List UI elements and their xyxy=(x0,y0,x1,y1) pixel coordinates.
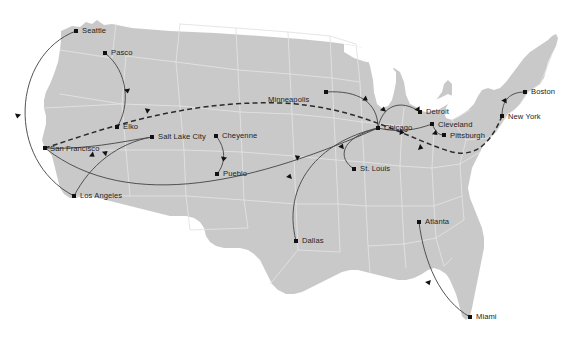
city-dot-dallas[interactable] xyxy=(294,239,298,243)
arrowhead-atlanta-miami-0 xyxy=(425,280,432,286)
city-dot-miami[interactable] xyxy=(468,315,472,319)
city-dot-los-angeles[interactable] xyxy=(72,194,76,198)
landmass-layer xyxy=(42,20,558,320)
city-label-salt-lake-city: Salt Lake City xyxy=(158,133,206,141)
city-label-elko: Elko xyxy=(123,123,138,131)
city-label-chicago: Chicago xyxy=(384,124,412,132)
city-label-st-louis: St. Louis xyxy=(360,165,390,173)
city-label-new-york: New York xyxy=(508,113,541,121)
city-dot-boston[interactable] xyxy=(523,90,527,94)
city-label-miami: Miami xyxy=(476,313,497,321)
city-label-atlanta: Atlanta xyxy=(425,218,449,226)
city-dot-san-francisco[interactable] xyxy=(43,146,47,150)
city-label-pasco: Pasco xyxy=(111,49,133,57)
city-dot-salt-lake-city[interactable] xyxy=(150,135,154,139)
city-label-boston: Boston xyxy=(531,88,555,96)
city-label-pittsburgh: Pittsburgh xyxy=(450,132,485,140)
city-label-seattle: Seattle xyxy=(82,27,106,35)
city-dot-pueblo[interactable] xyxy=(215,172,219,176)
city-label-minneapolis: Minneapolis xyxy=(268,96,309,104)
us-landmass xyxy=(42,20,558,320)
city-dot-minneapolis[interactable] xyxy=(324,90,328,94)
city-label-dallas: Dallas xyxy=(302,237,324,245)
city-dot-atlanta[interactable] xyxy=(417,220,421,224)
city-dot-chicago[interactable] xyxy=(376,126,380,130)
city-dot-cleveland[interactable] xyxy=(430,122,434,126)
city-dot-detroit[interactable] xyxy=(418,110,422,114)
city-label-cleveland: Cleveland xyxy=(438,121,472,129)
map-canvas xyxy=(0,0,575,342)
arrowhead-seattle-los-angeles-0 xyxy=(14,113,21,119)
city-label-san-francisco: San Francisco xyxy=(50,145,100,153)
city-dot-elko[interactable] xyxy=(115,125,119,129)
city-dot-new-york[interactable] xyxy=(500,114,504,118)
city-dot-pittsburgh[interactable] xyxy=(442,133,446,137)
lake-huron-erie xyxy=(404,70,428,98)
city-dot-seattle[interactable] xyxy=(74,29,78,33)
city-label-detroit: Detroit xyxy=(426,108,449,116)
city-dot-cheyenne[interactable] xyxy=(214,134,218,138)
route-map: SeattlePascoSan FranciscoLos AngelesElko… xyxy=(0,0,575,342)
city-label-los-angeles: Los Angeles xyxy=(80,192,122,200)
city-dot-pasco[interactable] xyxy=(103,51,107,55)
city-dot-st-louis[interactable] xyxy=(352,167,356,171)
city-label-pueblo: Pueblo xyxy=(223,170,247,178)
city-label-cheyenne: Cheyenne xyxy=(222,132,257,140)
